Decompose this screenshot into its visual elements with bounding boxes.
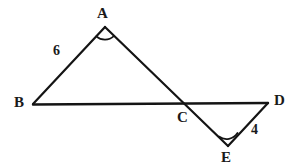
side-length-ab: 6 [53,44,60,58]
segment-AB [33,27,105,104]
vertex-label-c: C [177,110,188,125]
segment-BD [33,103,268,105]
segment-AE [105,27,228,146]
figure-canvas [0,0,299,166]
angle-arc-A [96,36,114,39]
vertex-label-a: A [97,6,108,21]
vertex-label-b: B [14,95,24,110]
vertex-label-e: E [221,150,231,165]
geometry-figure: A B C D E 6 4 [0,0,299,166]
side-length-de: 4 [251,123,258,137]
vertex-label-d: D [274,93,285,108]
segment-DE [228,103,268,146]
